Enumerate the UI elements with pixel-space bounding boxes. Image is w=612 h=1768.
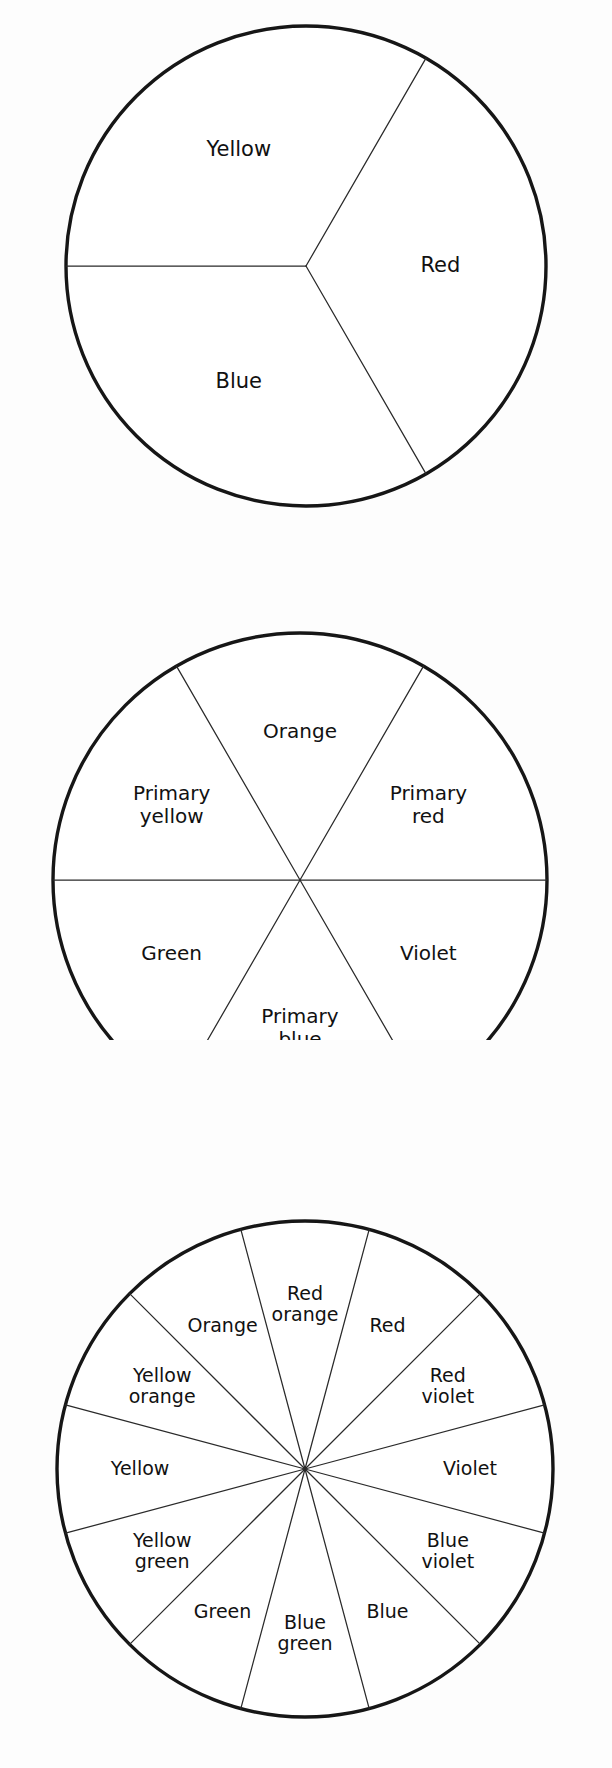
wheel-outline [53,633,547,1040]
wheel-segment-label: Green [194,1599,252,1621]
secondary-wheel-group: PrimaryredVioletPrimaryblueGreenPrimaryy… [53,633,547,1040]
wheel-segment-label: Yelloworange [129,1364,196,1407]
wheel-segment-label: Orange [187,1314,257,1336]
wheel-segment-label: Blueviolet [422,1528,475,1571]
wheel-segment-label: Primaryyellow [133,781,210,828]
tertiary-wheel-group: RedRedvioletVioletBluevioletBlueBluegree… [57,1221,553,1717]
wheel-segment-label: Blue [216,369,262,393]
wheel-segment-label: Red [369,1314,405,1336]
wheel-segment-label: Yellow [205,137,271,161]
wheel-segment-label: Yellowgreen [132,1528,192,1571]
color-wheel-page: RedBlueYellow PrimaryredVioletPrimaryblu… [0,0,612,1768]
wheel-segment-label: Orange [263,718,337,742]
wheel-segment-label: Yellow [110,1457,170,1479]
wheel-segment-label: Green [141,941,202,965]
tertiary-color-wheel-svg: RedRedvioletVioletBluevioletBlueBluegree… [0,1040,612,1768]
primary-color-wheel-figure: RedBlueYellow [0,0,612,520]
wheel-segment-label: Violet [443,1457,497,1479]
primary-wheel-group: RedBlueYellow [66,26,546,506]
secondary-color-wheel-svg: PrimaryredVioletPrimaryblueGreenPrimaryy… [0,520,612,1040]
wheel-segment-label: Bluegreen [278,1611,333,1654]
wheel-segment-label: Blue [366,1599,408,1621]
wheel-segment-label: Violet [400,941,457,965]
tertiary-color-wheel-figure: RedRedvioletVioletBluevioletBlueBluegree… [0,1040,612,1768]
primary-color-wheel-svg: RedBlueYellow [0,0,612,520]
secondary-color-wheel-figure: PrimaryredVioletPrimaryblueGreenPrimaryy… [0,520,612,1040]
wheel-segment-label: Red [420,253,460,277]
